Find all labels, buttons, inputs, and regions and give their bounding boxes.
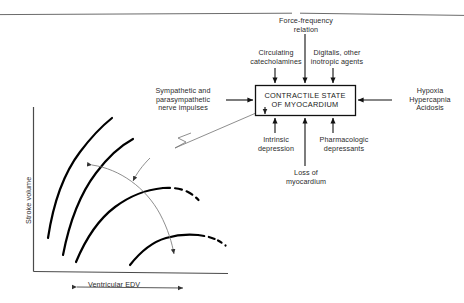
curve-3-tail <box>163 188 187 192</box>
curve-3-tail2 <box>188 192 199 200</box>
curve-pointer-arrow <box>133 158 150 181</box>
graph-axes <box>34 107 229 274</box>
contractile-state-box-label: CONTRACTILE STATEOF MYOCARDIUM <box>256 91 354 110</box>
label-intrinsic-depression: Intrinsic depression <box>248 136 304 153</box>
curve-4-tail2 <box>218 241 226 246</box>
figure-vector-layer <box>0 0 464 303</box>
box-line-2: OF MYOCARDIUM <box>272 100 339 109</box>
y-axis-label: Stroke volume <box>24 177 33 224</box>
label-hypoxia-hypercapnia-acidosis: Hypoxia Hypercapnia Acidosis <box>400 87 460 113</box>
label-force-frequency: Force-frequency relation <box>265 17 347 34</box>
label-loss-of-myocardium: Loss of myocardium <box>273 169 339 186</box>
box-to-curves-lightning-arrow <box>175 113 256 148</box>
curve-4 <box>130 235 198 265</box>
top-rule <box>0 13 464 15</box>
label-nerve-impulses: Sympathetic and parasympathetic nerve im… <box>141 87 225 113</box>
x-axis-label: Ventricular EDV <box>88 280 140 289</box>
label-pharmacologic-depressants: Pharmacologic depressants <box>308 136 380 153</box>
box-line-1: CONTRACTILE STATE <box>264 91 345 100</box>
curve-4-tail <box>198 235 217 240</box>
figure-container: CONTRACTILE STATEOF MYOCARDIUM Force-fre… <box>0 0 464 303</box>
curve-2 <box>63 139 133 255</box>
label-digitalis-inotropic-agents: Digitalis, other inotropic agents <box>296 49 378 66</box>
contractility-double-arrow <box>92 165 174 254</box>
frank-starling-curves <box>48 118 226 265</box>
